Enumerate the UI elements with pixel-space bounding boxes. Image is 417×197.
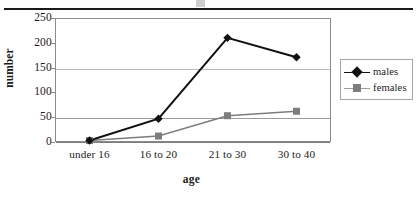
x-tick-label-21-to-30: 21 to 30: [193, 148, 263, 161]
legend-label-females: females: [373, 82, 407, 94]
diamond-marker-icon: [351, 66, 362, 77]
page-header-rule: [4, 8, 413, 10]
data-point-females-1: [155, 133, 162, 140]
data-point-males-3: [292, 53, 300, 61]
x-axis-title: age: [0, 173, 383, 185]
data-point-females-2: [224, 112, 231, 119]
legend-swatch-females: [344, 82, 370, 94]
square-marker-icon: [353, 84, 361, 92]
legend-item-females[interactable]: females: [344, 81, 407, 95]
y-tick-label: 250: [12, 12, 52, 24]
x-tick-label-30-to-40: 30 to 40: [262, 148, 332, 161]
series-layer: [55, 18, 331, 142]
series-line-females: [90, 111, 297, 140]
y-tick-label: 50: [12, 111, 52, 123]
y-tick-label: 200: [12, 37, 52, 49]
y-tick-label: 150: [12, 62, 52, 74]
scan-artifact-icon: [196, 0, 205, 7]
data-point-females-3: [293, 108, 300, 115]
y-axis-tick-labels: 250 200 150 100 50 0: [8, 18, 52, 142]
legend-swatch-males: [344, 66, 370, 78]
legend-item-males[interactable]: males: [344, 65, 398, 79]
legend-label-males: males: [373, 66, 398, 78]
y-tick-label: 0: [12, 136, 52, 148]
x-tick-label-under-16: under 16: [55, 148, 125, 161]
chart-page: number 250 200 150 100 50 0 under 16 16 …: [0, 0, 417, 197]
y-tick-label: 100: [12, 86, 52, 98]
legend: males females: [340, 59, 413, 100]
x-axis-tick-labels: under 16 16 to 20 21 to 30 30 to 40: [55, 148, 331, 164]
x-tick-label-16-to-20: 16 to 20: [124, 148, 194, 161]
